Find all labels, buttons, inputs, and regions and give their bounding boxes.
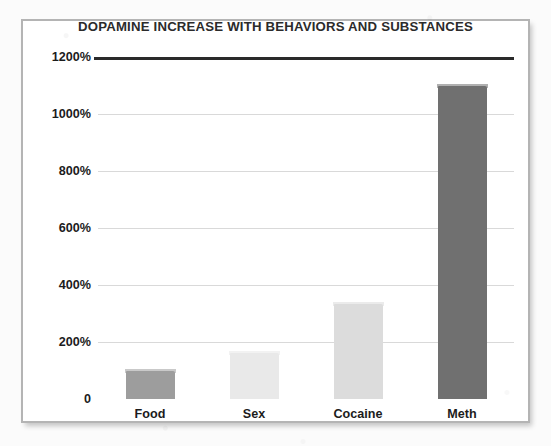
y-axis-tick-label: 400% [59,278,91,292]
chart-title: DOPAMINE INCREASE WITH BEHAVIORS AND SUB… [23,19,528,34]
y-axis-tick-label: 0 [84,392,91,406]
bar-fill [334,304,383,399]
y-axis-tick-label: 1000% [52,107,91,121]
bar-cocaine: Cocaine [334,304,383,399]
bar-sex: Sex [230,353,279,399]
y-axis-tick-label: 1200% [52,50,91,64]
x-axis-tick-label: Sex [243,407,265,421]
x-axis-tick-label: Cocaine [334,407,383,421]
bar-fill [230,353,279,399]
plot-area: 0200%400%600%800%1000%1200% FoodSexCocai… [98,57,514,399]
x-axis-tick-label: Food [135,407,166,421]
bar-fill [126,371,175,400]
y-axis-tick-label: 200% [59,335,91,349]
scanned-page-background: DOPAMINE INCREASE WITH BEHAVIORS AND SUB… [0,0,551,446]
x-axis-line [94,57,514,60]
x-axis-tick-label: Meth [447,407,476,421]
y-axis-tick-label: 600% [59,221,91,235]
chart-frame: DOPAMINE INCREASE WITH BEHAVIORS AND SUB… [21,19,530,423]
bar-meth: Meth [438,86,487,400]
y-axis-tick-label: 800% [59,164,91,178]
bar-food: Food [126,371,175,400]
bar-fill [438,86,487,400]
